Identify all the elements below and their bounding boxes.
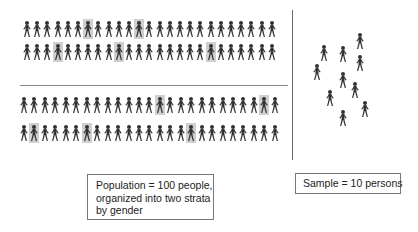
person-icon (51, 97, 59, 113)
person-icon (198, 125, 206, 141)
person-icon (94, 21, 102, 37)
person-icon (176, 44, 184, 60)
person-icon (74, 21, 82, 37)
person-icon (23, 44, 31, 60)
population-person (246, 42, 256, 62)
sampled-person (155, 95, 165, 115)
population-person (19, 123, 29, 143)
population-person (113, 95, 123, 115)
person-icon (268, 21, 276, 37)
population-person (175, 19, 185, 39)
population-person (63, 42, 73, 62)
person-icon (361, 101, 369, 117)
population-person (104, 42, 114, 62)
population-person (176, 123, 186, 143)
population-person (238, 123, 248, 143)
population-person (50, 95, 60, 115)
population-person (144, 95, 154, 115)
person-icon (227, 21, 235, 37)
population-person (259, 123, 269, 143)
population-person (226, 19, 236, 39)
person-icon (51, 125, 59, 141)
person-icon (229, 97, 237, 113)
population-person (53, 19, 63, 39)
population-person (92, 95, 102, 115)
person-icon (43, 21, 51, 37)
person-icon (177, 125, 185, 141)
population-person (228, 95, 238, 115)
population-person (29, 95, 39, 115)
person-icon (41, 97, 49, 113)
population-person (73, 19, 83, 39)
person-icon (64, 21, 72, 37)
population-person (124, 42, 134, 62)
person-icon (239, 125, 247, 141)
person-icon (114, 97, 122, 113)
population-person (236, 19, 246, 39)
population-person (216, 19, 226, 39)
person-icon (186, 21, 194, 37)
person-icon (145, 125, 153, 141)
population-person (186, 95, 196, 115)
population-person (267, 42, 277, 62)
person-icon (219, 97, 227, 113)
sampled-person (206, 42, 216, 62)
person-icon (207, 44, 215, 60)
population-person (124, 19, 134, 39)
sampled-person (53, 42, 63, 62)
person-icon (326, 90, 334, 106)
population-person (236, 42, 246, 62)
population-person (42, 42, 52, 62)
population-person (249, 95, 259, 115)
person-icon (339, 72, 347, 88)
person-icon (187, 97, 195, 113)
population-person (270, 123, 280, 143)
population-person (40, 123, 50, 143)
person-icon (217, 21, 225, 37)
population-sample-divider (292, 10, 293, 160)
sample-person (350, 80, 360, 100)
population-person (175, 42, 185, 62)
population-person (207, 95, 217, 115)
population-person (93, 19, 103, 39)
sampled-person (259, 95, 269, 115)
person-icon (186, 44, 194, 60)
person-icon (166, 97, 174, 113)
person-icon (105, 44, 113, 60)
person-icon (258, 44, 266, 60)
population-person (270, 95, 280, 115)
sample-label-line-1: Sample = 10 persons (303, 177, 400, 190)
population-person (257, 42, 267, 62)
population-person (63, 19, 73, 39)
population-person (249, 123, 259, 143)
population-label-line-2: organized into two strata (96, 192, 213, 205)
population-person (92, 123, 102, 143)
person-icon (125, 97, 133, 113)
person-icon (30, 97, 38, 113)
population-person (83, 42, 93, 62)
population-person (257, 19, 267, 39)
person-icon (320, 45, 328, 61)
person-icon (114, 125, 122, 141)
population-person (206, 19, 216, 39)
population-person (218, 123, 228, 143)
strata-divider (20, 85, 288, 86)
person-icon (227, 44, 235, 60)
population-person (124, 95, 134, 115)
sample-label-box: Sample = 10 persons (295, 173, 401, 194)
population-person (228, 123, 238, 143)
person-icon (145, 21, 153, 37)
person-icon (208, 125, 216, 141)
person-icon (125, 125, 133, 141)
person-icon (20, 125, 28, 141)
population-label-box: Population = 100 people, organized into … (87, 174, 214, 220)
person-icon (166, 21, 174, 37)
sample-person (325, 88, 335, 108)
population-person (165, 42, 175, 62)
population-person (185, 42, 195, 62)
population-person (144, 19, 154, 39)
population-person (197, 95, 207, 115)
person-icon (125, 21, 133, 37)
population-person (165, 95, 175, 115)
population-label-line-3: by gender (96, 204, 213, 217)
